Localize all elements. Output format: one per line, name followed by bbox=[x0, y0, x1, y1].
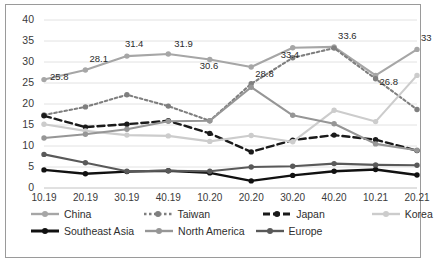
data-point bbox=[207, 118, 212, 123]
data-point bbox=[249, 178, 254, 183]
legend-item-taiwan[interactable]: Taiwan bbox=[143, 208, 210, 220]
data-label: 26.8 bbox=[380, 76, 399, 87]
legend-label: North America bbox=[178, 225, 245, 237]
data-point bbox=[414, 172, 419, 177]
legend-item-europe[interactable]: Europe bbox=[255, 225, 323, 237]
data-point bbox=[41, 122, 46, 127]
x-tick-label: 40.19 bbox=[145, 192, 191, 203]
x-tick-label: 30.19 bbox=[104, 192, 150, 203]
data-point bbox=[249, 133, 254, 138]
data-label: 28.8 bbox=[255, 68, 274, 79]
series-line-europe bbox=[44, 154, 417, 171]
legend-item-japan[interactable]: Japan bbox=[262, 208, 325, 220]
legend-item-china[interactable]: China bbox=[30, 208, 91, 220]
legend-item-southeast-asia[interactable]: Southeast Asia bbox=[30, 225, 134, 237]
data-point bbox=[124, 53, 129, 58]
data-point bbox=[249, 85, 254, 90]
data-label: 33.6 bbox=[338, 30, 357, 41]
chart-legend: ChinaTaiwanJapanKorea Southeast AsiaNort… bbox=[8, 208, 420, 237]
data-point bbox=[249, 149, 254, 154]
data-point bbox=[331, 45, 336, 50]
data-label: 33.4 bbox=[281, 49, 300, 60]
data-point bbox=[124, 92, 129, 97]
data-point bbox=[166, 168, 171, 173]
data-point bbox=[83, 160, 88, 165]
data-point bbox=[124, 132, 129, 137]
x-tick-label: 10.21 bbox=[353, 192, 399, 203]
data-point bbox=[373, 162, 378, 167]
data-point bbox=[124, 127, 129, 132]
data-point bbox=[414, 107, 419, 112]
data-point bbox=[166, 119, 171, 124]
data-point bbox=[290, 113, 295, 118]
series-layer bbox=[41, 44, 419, 183]
data-point bbox=[207, 169, 212, 174]
legend-label: China bbox=[64, 208, 91, 220]
y-tick-label: 25 bbox=[10, 76, 34, 88]
data-point bbox=[207, 131, 212, 136]
legend-label: Taiwan bbox=[177, 208, 210, 220]
data-point bbox=[249, 164, 254, 169]
data-label: 31.4 bbox=[125, 38, 144, 49]
y-tick-label: 35 bbox=[10, 34, 34, 46]
data-point bbox=[331, 108, 336, 113]
x-tick-label: 30.20 bbox=[270, 192, 316, 203]
legend-swatch-taiwan bbox=[143, 209, 173, 219]
legend-label: Southeast Asia bbox=[64, 225, 134, 237]
legend-item-north-america[interactable]: North America bbox=[144, 225, 245, 237]
data-point bbox=[41, 167, 46, 172]
data-label: 31.9 bbox=[174, 38, 193, 49]
y-tick-label: 5 bbox=[10, 160, 34, 172]
legend-label: Europe bbox=[289, 225, 323, 237]
data-point bbox=[373, 76, 378, 81]
legend-swatch-southeast-asia bbox=[30, 226, 60, 236]
series-line-southeast-asia bbox=[44, 170, 417, 181]
data-point bbox=[166, 133, 171, 138]
legend-row-2: Southeast AsiaNorth AmericaEurope bbox=[8, 225, 420, 237]
x-tick-label: 10.20 bbox=[187, 192, 233, 203]
data-point bbox=[331, 121, 336, 126]
legend-label: Japan bbox=[296, 208, 325, 220]
data-point bbox=[207, 139, 212, 144]
legend-row-1: ChinaTaiwanJapanKorea bbox=[8, 208, 420, 220]
y-tick-label: 10 bbox=[10, 139, 34, 151]
data-point bbox=[124, 122, 129, 127]
data-point bbox=[166, 103, 171, 108]
legend-swatch-japan bbox=[262, 209, 292, 219]
y-tick-label: 15 bbox=[10, 118, 34, 130]
data-point bbox=[331, 132, 336, 137]
data-label: 25.8 bbox=[50, 71, 69, 82]
data-point bbox=[331, 169, 336, 174]
data-point bbox=[414, 73, 419, 78]
data-point bbox=[83, 132, 88, 137]
x-tick-label: 20.21 bbox=[394, 192, 438, 203]
x-tick-label: 40.20 bbox=[311, 192, 357, 203]
legend-swatch-north-america bbox=[144, 226, 174, 236]
legend-item-korea[interactable]: Korea bbox=[371, 208, 433, 220]
data-point bbox=[41, 135, 46, 140]
legend-swatch-europe bbox=[255, 226, 285, 236]
data-point bbox=[331, 161, 336, 166]
data-point bbox=[83, 171, 88, 176]
data-point bbox=[41, 77, 46, 82]
legend-swatch-china bbox=[30, 209, 60, 219]
x-tick-label: 20.19 bbox=[62, 192, 108, 203]
data-point bbox=[290, 173, 295, 178]
data-point bbox=[373, 167, 378, 172]
data-point bbox=[124, 169, 129, 174]
y-tick-label: 20 bbox=[10, 97, 34, 109]
data-point bbox=[290, 139, 295, 144]
data-point bbox=[166, 51, 171, 56]
legend-label: Korea bbox=[405, 208, 433, 220]
data-point bbox=[373, 141, 378, 146]
data-point bbox=[414, 47, 419, 52]
data-label: 28.1 bbox=[89, 53, 108, 64]
y-tick-label: 30 bbox=[10, 55, 34, 67]
data-point bbox=[414, 163, 419, 168]
data-point bbox=[373, 119, 378, 124]
data-point bbox=[41, 113, 46, 118]
legend-swatch-korea bbox=[371, 209, 401, 219]
data-point bbox=[290, 164, 295, 169]
data-point bbox=[83, 104, 88, 109]
data-point bbox=[249, 64, 254, 69]
